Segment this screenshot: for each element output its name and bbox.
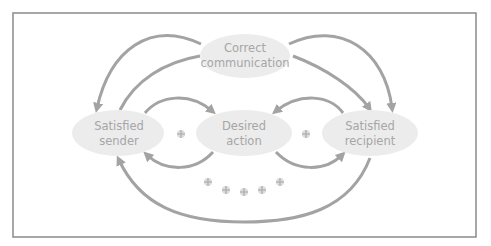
plus-icon xyxy=(204,178,212,186)
svg-text:recipient: recipient xyxy=(345,134,396,148)
node-label-line1: Correct xyxy=(224,41,266,55)
node-satisfied-recipient: Satisfied recipient xyxy=(322,110,418,156)
node-label-line2: action xyxy=(226,134,261,148)
node-label-line2: sender xyxy=(99,134,139,148)
svg-text:sender: sender xyxy=(99,134,139,148)
node-label-line2: recipient xyxy=(345,134,396,148)
node-label-line1: Satisfied xyxy=(94,119,144,133)
plus-icon xyxy=(240,188,248,196)
plus-icon xyxy=(302,130,310,138)
svg-text:Correct: Correct xyxy=(224,41,266,55)
node-desired-action: Desired action xyxy=(196,110,292,156)
svg-text:Satisfied: Satisfied xyxy=(345,119,395,133)
node-satisfied-sender: Satisfied sender xyxy=(72,110,164,156)
plus-icon xyxy=(258,186,266,194)
node-label-line1: Desired xyxy=(222,119,266,133)
communication-cycle-diagram: Correct communication Satisfied sender D… xyxy=(0,0,491,246)
plus-icon xyxy=(177,130,185,138)
node-label-line1: Satisfied xyxy=(345,119,395,133)
node-label-line2: communication xyxy=(201,56,290,70)
svg-text:communication: communication xyxy=(201,56,290,70)
plus-icon xyxy=(276,178,284,186)
svg-text:action: action xyxy=(226,134,261,148)
svg-text:Desired: Desired xyxy=(222,119,266,133)
svg-text:Satisfied: Satisfied xyxy=(94,119,144,133)
plus-icon xyxy=(222,186,230,194)
node-correct-communication: Correct communication xyxy=(200,34,290,78)
